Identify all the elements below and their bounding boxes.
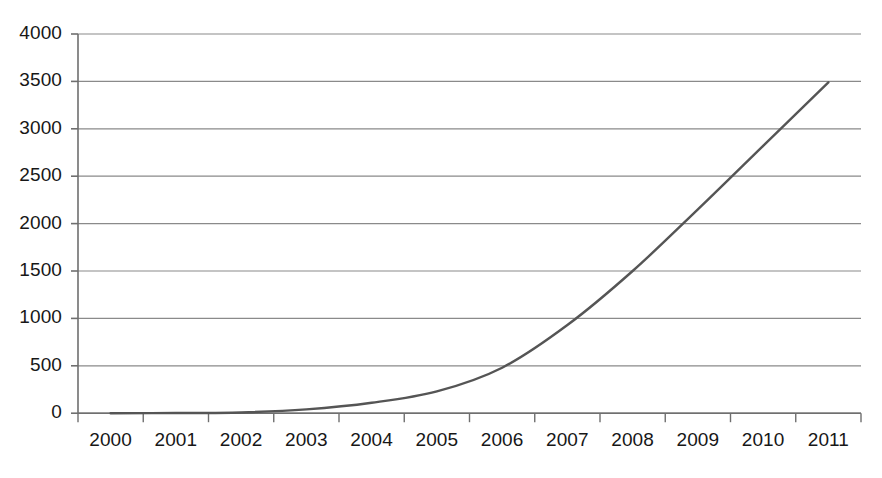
x-tick-label: 2004 <box>339 429 404 451</box>
y-tick-label: 1500 <box>0 259 62 281</box>
y-tick-label: 3500 <box>0 69 62 91</box>
y-tick-label: 0 <box>0 401 62 423</box>
data-series-line <box>111 82 829 413</box>
x-tick-mark-group <box>78 413 861 422</box>
x-tick-label: 2002 <box>209 429 274 451</box>
y-tick-label: 1000 <box>0 306 62 328</box>
x-tick-label: 2006 <box>470 429 535 451</box>
x-tick-label: 2007 <box>535 429 600 451</box>
y-tick-label: 2500 <box>0 164 62 186</box>
x-tick-label: 2000 <box>78 429 143 451</box>
x-tick-label: 2009 <box>665 429 730 451</box>
chart-canvas <box>0 0 882 478</box>
y-tick-label: 3000 <box>0 117 62 139</box>
x-tick-label: 2008 <box>600 429 665 451</box>
y-tick-label: 4000 <box>0 22 62 44</box>
gridline-group <box>78 34 861 413</box>
line-chart-figure: 05001000150020002500300035004000 2000200… <box>0 0 882 478</box>
x-tick-label: 2003 <box>274 429 339 451</box>
y-tick-mark-group <box>71 34 78 413</box>
y-tick-label: 2000 <box>0 212 62 234</box>
x-tick-label: 2005 <box>404 429 469 451</box>
x-tick-label: 2011 <box>796 429 861 451</box>
x-tick-label: 2010 <box>731 429 796 451</box>
y-tick-label: 500 <box>0 354 62 376</box>
x-tick-label: 2001 <box>143 429 208 451</box>
plot-area: 05001000150020002500300035004000 2000200… <box>0 0 882 478</box>
